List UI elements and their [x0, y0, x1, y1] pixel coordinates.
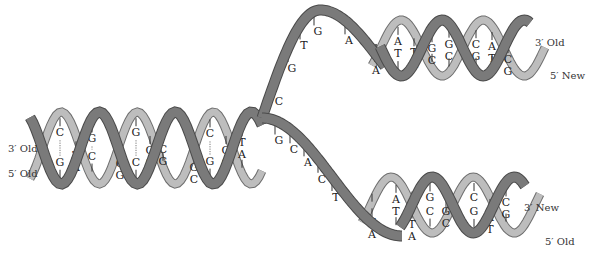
base-letter-top: A [393, 35, 403, 48]
lower-daughter-base-pair: GC [426, 183, 435, 226]
label-lower-3-new: 3′ New [524, 202, 559, 213]
base-letter-bottom: G [504, 65, 513, 78]
base-letter-bottom: A [237, 148, 247, 161]
parent-base-pair: CG [56, 118, 65, 178]
base-letter-bottom: C [88, 150, 96, 163]
base-letter-top: C [56, 126, 64, 139]
base-letter: G [288, 62, 297, 75]
base-letter-bottom: C [442, 217, 450, 230]
dna-replication-diagram: CGTAGCCGGCGCCGGCCGGCTATAATTAGCGCCGATCGTA… [0, 0, 591, 259]
base-letter-bottom: G [470, 205, 479, 218]
base-letter-bottom: C [190, 173, 198, 186]
lower-daughter-base-pair: CG [470, 183, 479, 227]
base-letter: G [314, 25, 323, 38]
base-letter: C [290, 143, 298, 156]
base-letter: C [275, 95, 283, 108]
base-letter-bottom: A [407, 230, 417, 243]
base-letter-top: G [132, 126, 141, 139]
base-letter-top: C [206, 127, 214, 140]
base-letter-bottom: C [426, 205, 434, 218]
base-letter-top: G [426, 191, 435, 204]
base-letter-bottom: G [206, 155, 215, 168]
base-letter-bottom: C [132, 156, 140, 169]
strands-front-layer [30, 10, 530, 236]
label-lower-5-old: 5′ Old [545, 236, 575, 247]
base-letter-bottom: G [56, 156, 65, 169]
upper-daughter-base-pair: AT [393, 27, 403, 69]
base-letter: T [300, 39, 308, 52]
base-letter: G [275, 134, 284, 147]
base-letter-top: C [470, 191, 478, 204]
label-parent-3-old: 3′ Old [8, 143, 38, 154]
base-letter-bottom: T [392, 205, 400, 218]
base-letter-bottom: T [394, 47, 402, 60]
label-parent-5-old: 5′ Old [8, 168, 38, 179]
parent-base-pair: GC [132, 118, 141, 178]
label-upper-5-new: 5′ New [550, 70, 585, 81]
base-letter: A [344, 34, 354, 47]
label-upper-3-old: 3′ Old [535, 37, 565, 48]
